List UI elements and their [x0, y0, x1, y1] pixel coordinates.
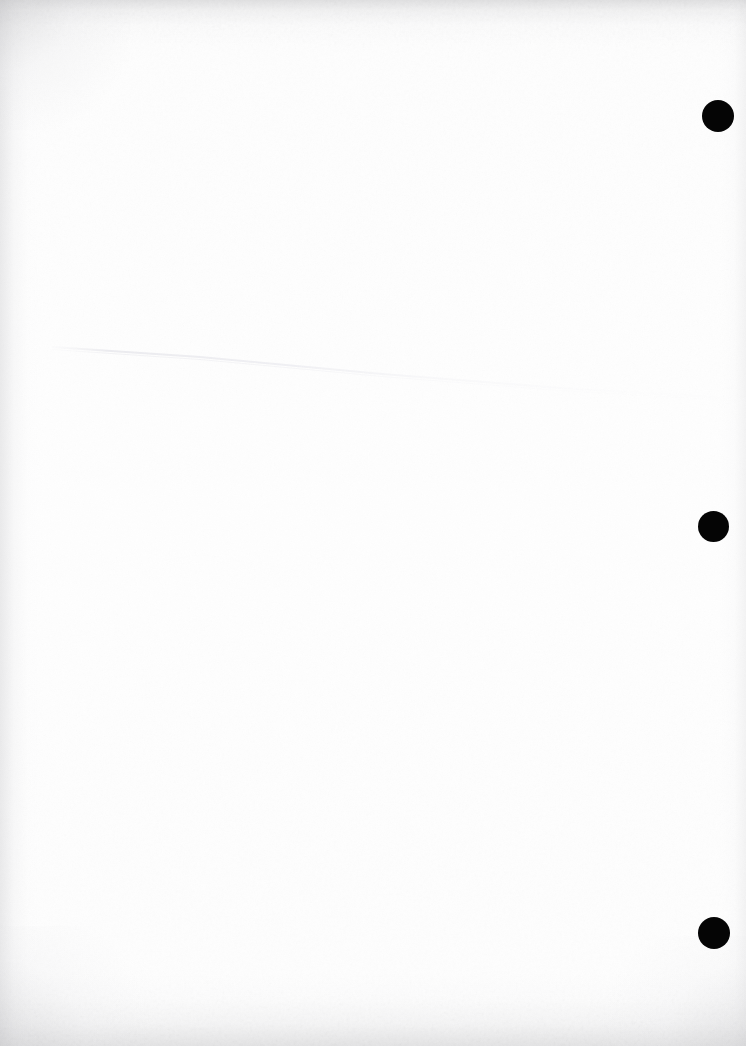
registration-mark-middle: [698, 511, 729, 542]
registration-mark-top: [702, 100, 734, 132]
registration-mark-bottom: [698, 917, 730, 949]
scan-shadow-left-edge: [0, 0, 40, 1046]
page-body-text: [60, 60, 660, 960]
scanned-page: [0, 0, 746, 1046]
